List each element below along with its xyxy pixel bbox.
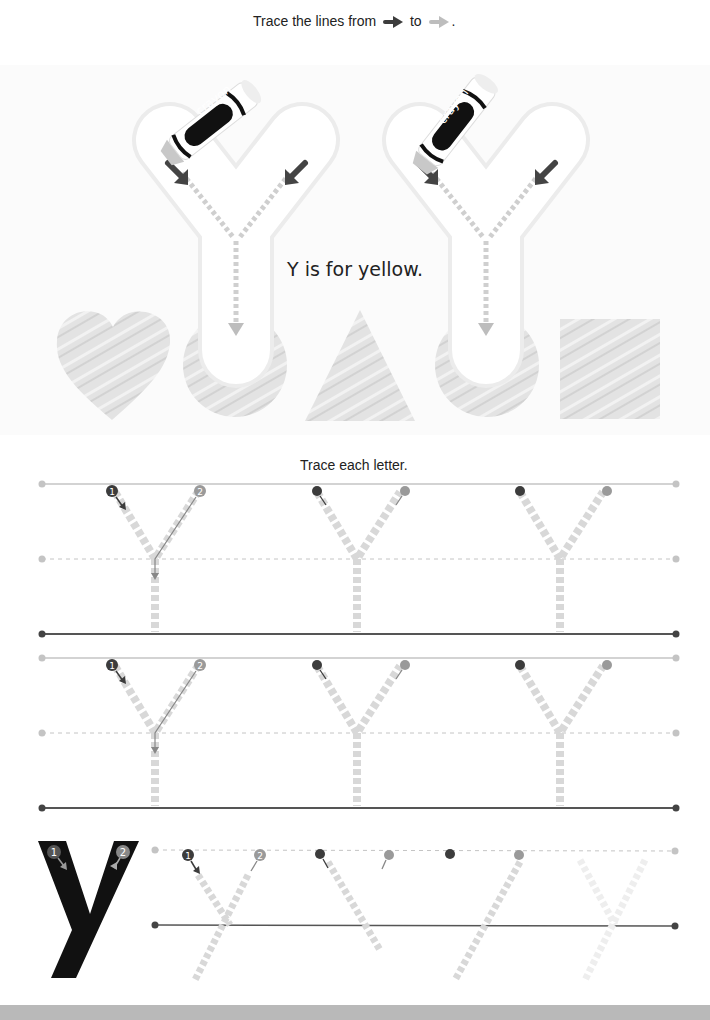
svg-text:2: 2 <box>197 487 203 497</box>
tracing-row-1[interactable]: 1 2 <box>39 481 680 638</box>
end-arrow-icon <box>429 16 449 28</box>
tracing-row-2[interactable]: 1 2 <box>39 655 680 812</box>
svg-text:1: 1 <box>185 851 191 861</box>
svg-text:2: 2 <box>257 851 263 861</box>
svg-text:2: 2 <box>197 661 203 671</box>
square-shape <box>560 319 660 419</box>
start-arrow-icon <box>383 16 403 28</box>
tracing-area: 1 2 1 2 1 2 <box>0 470 710 1010</box>
svg-text:1: 1 <box>109 487 115 497</box>
instruction-prefix: Trace the lines from <box>253 13 376 29</box>
yellow-caption: Y is for yellow. <box>287 258 423 280</box>
svg-text:2: 2 <box>120 847 126 858</box>
instruction-mid: to <box>410 13 422 29</box>
yellow-illustration <box>0 45 710 435</box>
instruction-suffix: . <box>452 13 456 29</box>
footer-bar <box>0 1005 710 1020</box>
svg-text:1: 1 <box>109 661 115 671</box>
svg-text:1: 1 <box>51 847 57 858</box>
model-lowercase-y: 1 2 <box>38 841 139 978</box>
tracing-row-3[interactable]: 1 2 <box>152 847 679 981</box>
trace-lines-instruction: Trace the lines from to . <box>253 13 455 29</box>
